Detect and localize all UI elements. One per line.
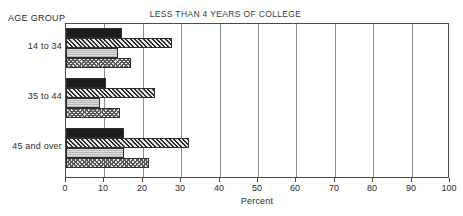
x-tick-label-60: 60	[280, 183, 310, 193]
bar-3-1	[66, 128, 124, 138]
x-tick-mark-100	[449, 178, 450, 182]
bar-3-2	[66, 138, 189, 148]
bar-2-4	[66, 108, 120, 118]
x-tick-mark-70	[334, 178, 335, 182]
x-tick-label-80: 80	[357, 183, 387, 193]
chart-title: LESS THAN 4 YEARS OF COLLEGE	[0, 9, 463, 19]
bar-1-4	[66, 58, 131, 68]
x-tick-mark-60	[295, 178, 296, 182]
x-tick-label-90: 90	[396, 183, 426, 193]
x-axis-title: Percent	[65, 196, 449, 206]
category-label-2: 35 to 44	[0, 91, 62, 101]
x-tick-label-100: 100	[434, 183, 463, 193]
bar-3-4	[66, 158, 149, 168]
bar-1-2	[66, 38, 172, 48]
age-group-axis-caption: AGE GROUP	[8, 13, 65, 23]
x-tick-mark-10	[103, 178, 104, 182]
x-tick-label-0: 0	[50, 183, 80, 193]
bar-2-3	[66, 98, 100, 108]
x-tick-label-30: 30	[165, 183, 195, 193]
bar-2-1	[66, 78, 106, 88]
x-tick-label-70: 70	[319, 183, 349, 193]
category-labels: 14 to 3435 to 4445 and over	[0, 23, 62, 178]
bar-3-3	[66, 148, 124, 158]
category-label-3: 45 and over	[0, 141, 62, 151]
x-tick-mark-0	[65, 178, 66, 182]
category-label-1: 14 to 34	[0, 41, 62, 51]
x-tick-label-40: 40	[204, 183, 234, 193]
x-tick-mark-20	[142, 178, 143, 182]
x-tick-label-20: 20	[127, 183, 157, 193]
x-tick-mark-30	[180, 178, 181, 182]
x-axis: 0102030405060708090100	[65, 178, 449, 198]
x-tick-label-50: 50	[242, 183, 272, 193]
chart-figure: LESS THAN 4 YEARS OF COLLEGE AGE GROUP 1…	[0, 0, 463, 216]
chart-title-text: LESS THAN 4 YEARS OF COLLEGE	[150, 9, 302, 19]
plot-area	[65, 23, 449, 178]
bar-2-2	[66, 88, 155, 98]
x-tick-label-10: 10	[88, 183, 118, 193]
x-tick-mark-50	[257, 178, 258, 182]
bars-layer	[66, 24, 448, 177]
bar-1-3	[66, 48, 118, 58]
x-tick-mark-40	[219, 178, 220, 182]
bar-1-1	[66, 28, 122, 38]
x-tick-mark-80	[372, 178, 373, 182]
x-tick-mark-90	[411, 178, 412, 182]
